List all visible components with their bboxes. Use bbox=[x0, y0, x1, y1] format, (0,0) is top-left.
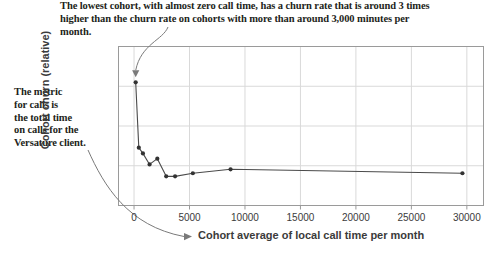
data-point bbox=[147, 162, 151, 166]
data-point bbox=[228, 167, 232, 171]
data-point bbox=[134, 80, 138, 84]
x-tick-label: 10000 bbox=[231, 212, 259, 223]
x-tick-label: 0 bbox=[131, 212, 137, 223]
x-axis-ticks bbox=[134, 206, 467, 210]
x-tick-label: 5000 bbox=[178, 212, 200, 223]
data-point bbox=[460, 171, 464, 175]
x-tick-label: 20000 bbox=[342, 212, 370, 223]
x-tick-label: 25000 bbox=[397, 212, 425, 223]
series-markers bbox=[134, 80, 465, 178]
data-point bbox=[155, 157, 159, 161]
series-line bbox=[136, 82, 463, 176]
data-point bbox=[173, 174, 177, 178]
horizontal-gridlines bbox=[119, 86, 484, 166]
data-point bbox=[137, 146, 141, 150]
x-tick-label: 15000 bbox=[287, 212, 315, 223]
data-point bbox=[141, 151, 145, 155]
data-point bbox=[164, 174, 168, 178]
data-point bbox=[191, 171, 195, 175]
x-tick-label: 30000 bbox=[453, 212, 481, 223]
chart-figure: The lowest cohort, with almost zero call… bbox=[0, 0, 503, 254]
